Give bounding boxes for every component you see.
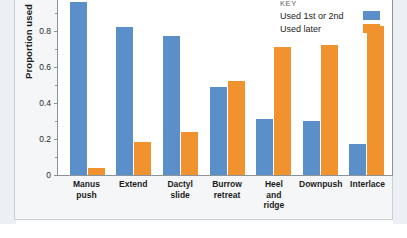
x-axis-label: Burrowretreat: [204, 179, 251, 211]
y-tick-label: 0.8: [39, 26, 51, 36]
x-axis-label: Downpush: [297, 179, 344, 211]
y-tick-0_8: 0.8: [39, 26, 58, 36]
y-tick-label: 0: [46, 170, 51, 180]
plot-area: 1 0.8 0.6 0.4 0.2 0 KEY Used 1st or 2nd …: [57, 0, 393, 176]
x-axis-labels: ManuspushExtendDactylslideBurrowretreatH…: [57, 179, 393, 211]
legend-swatch-icon-orange: [363, 24, 380, 33]
bar: [134, 142, 151, 175]
bar: [256, 119, 273, 175]
bar: [321, 45, 338, 175]
bar: [181, 132, 198, 175]
x-axis-label: Manuspush: [63, 179, 110, 211]
y-tick-0_2: 0.2: [39, 134, 58, 144]
bar: [349, 144, 366, 175]
bar: [228, 81, 245, 175]
page-background-right: [393, 0, 407, 224]
bar: [210, 87, 227, 175]
y-tick-label: 0.4: [39, 98, 51, 108]
page-background-bottom: [0, 224, 407, 238]
bar: [367, 26, 384, 175]
legend-label: Used 1st or 2nd: [280, 11, 344, 21]
bar: [70, 2, 87, 175]
chart-figure: Proportion used 1 0.8 0.6 0.4 0.2 0 KEY …: [0, 0, 407, 238]
legend-item-used-1st-or-2nd: Used 1st or 2nd: [280, 11, 380, 21]
legend-label: Used later: [280, 24, 321, 34]
y-axis-title: Proportion used: [23, 0, 34, 97]
legend: KEY Used 1st or 2nd Used later: [280, 0, 380, 37]
legend-title: KEY: [280, 0, 380, 8]
bar-group: [64, 0, 111, 175]
y-tick-label: 0.2: [39, 134, 51, 144]
bar-group: [204, 0, 251, 175]
y-tick-0_4: 0.4: [39, 98, 58, 108]
x-axis-label: Interlace: [344, 179, 391, 211]
y-tick-0_6: 0.6: [39, 62, 58, 72]
bar-group: [111, 0, 158, 175]
legend-item-used-later: Used later: [280, 24, 380, 34]
x-axis-label: Heelandridge: [250, 179, 297, 211]
bar: [274, 47, 291, 175]
x-axis-label: Extend: [110, 179, 157, 211]
bar: [163, 36, 180, 175]
bar: [303, 121, 320, 175]
bar-group: [157, 0, 204, 175]
legend-swatch-icon-blue: [363, 11, 380, 20]
x-axis-label: Dactylslide: [157, 179, 204, 211]
y-tick-label: 0.6: [39, 62, 51, 72]
bar: [88, 168, 105, 175]
bar: [116, 27, 133, 175]
